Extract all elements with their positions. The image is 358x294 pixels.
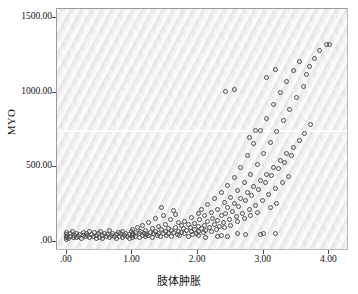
data-point [242,180,247,185]
data-point [282,160,287,165]
data-point [281,118,286,123]
data-point [255,162,260,167]
data-point [219,190,224,195]
data-points-layer [57,9,347,249]
data-point [235,231,240,236]
y-tick-label: 1500.00 [0,11,52,21]
data-point [286,174,291,179]
data-point [253,128,258,133]
x-tick-label: 1.00 [109,254,153,264]
x-tick-mark [197,250,198,254]
data-point [243,232,248,237]
data-point [222,225,227,230]
data-point [307,64,312,69]
y-tick-mark [52,241,56,242]
data-point [294,95,299,100]
data-point [196,211,201,216]
data-point [273,186,278,191]
data-point [238,165,243,170]
data-point [253,203,258,208]
data-point [297,59,302,64]
data-point [168,217,173,222]
scatter-chart: .00500.001000.001500.00 .001.002.003.004… [0,0,358,294]
x-axis-title: 肢体肿胀 [0,272,358,288]
x-tick-label: 4.00 [306,254,350,264]
data-point [258,232,263,237]
data-point [225,234,230,239]
data-point [301,84,306,89]
data-point [271,102,276,107]
data-point [327,42,332,47]
data-point [189,215,194,220]
y-tick-label: 500.00 [0,160,52,170]
plot-area [56,8,348,250]
data-point [269,173,274,178]
data-point [268,205,273,210]
data-point [228,223,233,228]
data-point [291,68,296,73]
data-point [312,56,317,61]
data-point [227,217,232,222]
data-point [304,72,309,77]
data-point [196,233,201,238]
data-point [264,75,269,80]
data-point [212,196,217,201]
data-point [289,153,294,158]
x-tick-mark [263,250,264,254]
x-tick-mark [66,250,67,254]
x-tick-label: .00 [44,254,88,264]
data-point [232,87,237,92]
data-point [209,210,214,215]
data-point [256,187,261,192]
data-point [153,216,158,221]
data-point [159,205,164,210]
data-point [274,129,279,134]
y-tick-label: .00 [0,235,52,245]
data-point [266,192,271,197]
data-point [284,79,289,84]
data-point [248,172,253,177]
data-point [248,213,253,218]
data-point [308,122,313,127]
data-point [276,166,281,171]
data-point [245,153,250,158]
data-point [268,140,273,145]
data-point [287,107,292,112]
y-axis-title: MYO [5,87,17,157]
data-point [255,210,260,215]
data-point [278,90,283,95]
data-point [215,207,220,212]
data-point [209,229,214,234]
y-tick-mark [52,92,56,93]
data-point [197,217,202,222]
data-point [273,67,278,72]
data-point [243,198,248,203]
data-point [247,135,252,140]
data-point [225,183,230,188]
data-point [297,138,302,143]
data-point [232,175,237,180]
data-point [228,195,233,200]
data-point [258,128,263,133]
data-point [210,216,215,221]
data-point [317,48,322,53]
data-point [264,116,269,121]
data-point [217,224,222,229]
data-point [230,209,235,214]
data-point [249,193,254,198]
data-point [215,218,220,223]
y-tick-mark [52,166,56,167]
data-point [199,207,204,212]
x-tick-label: 3.00 [241,254,285,264]
data-point [280,180,285,185]
data-point [202,213,207,218]
data-point [236,204,241,209]
data-point [161,213,166,218]
data-point [203,235,208,240]
data-point [242,216,247,221]
data-point [260,198,265,203]
data-point [235,188,240,193]
data-point [247,207,252,212]
data-point [274,201,279,206]
x-tick-label: 2.00 [175,254,219,264]
